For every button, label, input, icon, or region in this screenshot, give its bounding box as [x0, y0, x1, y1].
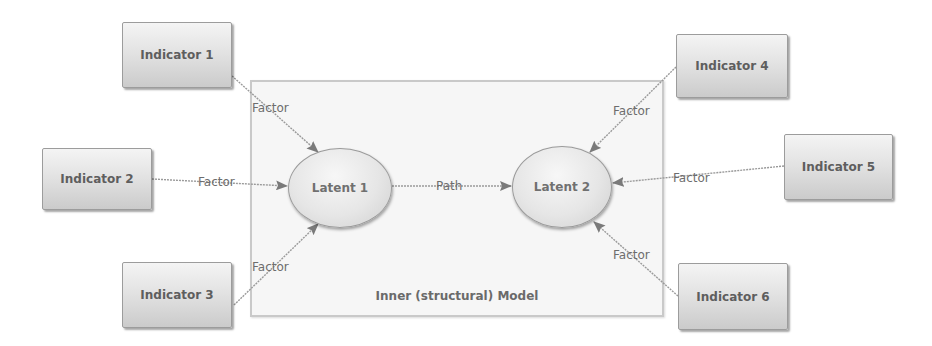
- indicator-node-3: Indicator 3: [122, 262, 232, 328]
- indicator-label: Indicator 4: [695, 59, 768, 73]
- indicator-node-6: Indicator 6: [678, 263, 788, 330]
- indicator-node-4: Indicator 4: [676, 34, 788, 98]
- indicator-label: Indicator 5: [802, 160, 875, 174]
- pls-path-model-diagram: Inner (structural) Model Latent 1Latent …: [0, 0, 932, 346]
- latent-node-1: Latent 1: [288, 148, 392, 228]
- latent-label: Latent 2: [534, 180, 590, 194]
- factor-edge-label: Factor: [613, 248, 650, 262]
- indicator-label: Indicator 6: [696, 290, 769, 304]
- latent-label: Latent 1: [312, 181, 368, 195]
- indicator-label: Indicator 1: [140, 48, 213, 62]
- latent-node-2: Latent 2: [512, 146, 612, 228]
- indicator-node-2: Indicator 2: [42, 148, 152, 210]
- indicator-node-1: Indicator 1: [122, 22, 232, 88]
- factor-edge-label: Factor: [252, 260, 289, 274]
- factor-edge-label: Factor: [613, 104, 650, 118]
- indicator-label: Indicator 2: [60, 172, 133, 186]
- path-edge-label: Path: [436, 179, 462, 193]
- indicator-label: Indicator 3: [140, 288, 213, 302]
- factor-edge-label: Factor: [198, 175, 235, 189]
- factor-edge-label: Factor: [252, 101, 289, 115]
- indicator-node-5: Indicator 5: [784, 134, 893, 200]
- factor-edge-label: Factor: [673, 171, 710, 185]
